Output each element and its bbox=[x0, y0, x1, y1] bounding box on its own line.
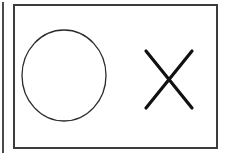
shapes-svg bbox=[0, 0, 225, 155]
diagram-canvas: Hand-drawn style diagram on white backgr… bbox=[0, 0, 225, 155]
circle-shape bbox=[22, 30, 106, 121]
x-mark-group bbox=[146, 51, 192, 108]
outer-rectangle-frame bbox=[14, 5, 217, 148]
